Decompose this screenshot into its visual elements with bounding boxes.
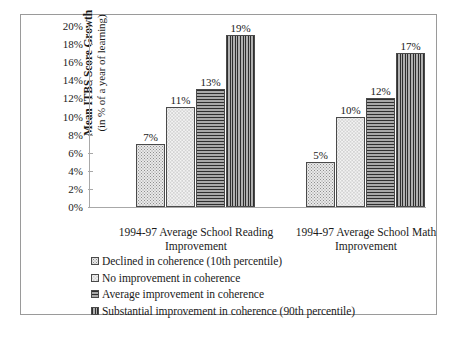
y-axis-tick: [88, 171, 93, 172]
legend-swatch-icon: [91, 290, 99, 298]
x-axis-line: [89, 207, 426, 208]
y-axis-tick-label: 18%: [63, 38, 83, 50]
y-axis-tick-label: 14%: [63, 74, 83, 86]
y-axis-tick-label: 6%: [68, 147, 83, 159]
y-axis-tick-label: 0%: [68, 201, 83, 213]
legend-label: No improvement in coherence: [102, 272, 240, 284]
bar-group-reading: 7% 11% 13% 19%: [136, 26, 256, 207]
legend-swatch-icon: [91, 274, 99, 282]
y-axis-tick: [88, 80, 93, 81]
y-axis-tick-label: 8%: [68, 129, 83, 141]
bar-math-substantial[interactable]: 17%: [396, 53, 425, 207]
bar-reading-no-improvement[interactable]: 11%: [166, 107, 195, 207]
y-axis-tick: [88, 44, 93, 45]
y-axis-tick: [88, 62, 93, 63]
y-axis-tick-label: 4%: [68, 165, 83, 177]
y-axis-tick: [88, 135, 93, 136]
legend-swatch-icon: [91, 307, 99, 315]
bar-value-label: 17%: [400, 40, 420, 52]
legend-label: Substantial improvement in coherence (90…: [102, 305, 355, 317]
bar-value-label: 12%: [370, 85, 390, 97]
bar-value-label: 7%: [143, 131, 158, 143]
y-axis-tick: [88, 26, 93, 27]
category-label-math: 1994-97 Average School Math Improvement: [269, 226, 457, 253]
bar-group-math: 5% 10% 12% 17%: [306, 26, 426, 207]
y-axis-tick-label: 10%: [63, 111, 83, 123]
y-axis-tick: [88, 207, 93, 208]
bar-math-average[interactable]: 12%: [366, 98, 395, 207]
category-label-line1: 1994-97 Average School Reading: [119, 226, 274, 238]
y-axis-tick: [88, 189, 93, 190]
chart-legend: Declined in coherence (10th percentile)N…: [91, 253, 421, 319]
chart-frame: Mean ITBS Score Growth (in % of a year o…: [20, 14, 437, 315]
bar-value-label: 19%: [230, 22, 250, 34]
y-axis-tick-label: 16%: [63, 56, 83, 68]
bar-math-no-improvement[interactable]: 10%: [336, 117, 365, 208]
legend-item[interactable]: Declined in coherence (10th percentile): [91, 253, 421, 270]
bar-reading-declined[interactable]: 7%: [136, 144, 165, 207]
y-axis-tick: [88, 153, 93, 154]
y-axis-tick: [88, 98, 93, 99]
legend-item[interactable]: No improvement in coherence: [91, 270, 421, 287]
bar-value-label: 5%: [313, 149, 328, 161]
y-axis-tick-label: 2%: [68, 183, 83, 195]
bar-value-label: 13%: [200, 76, 220, 88]
category-label-line2: Improvement: [165, 240, 227, 252]
bar-math-declined[interactable]: 5%: [306, 162, 335, 207]
category-label-reading: 1994-97 Average School Reading Improveme…: [96, 226, 296, 253]
category-label-line1: 1994-97 Average School Math: [296, 226, 437, 238]
legend-swatch-icon: [91, 257, 99, 265]
bar-value-label: 11%: [171, 94, 191, 106]
legend-item[interactable]: Average improvement in coherence: [91, 286, 421, 303]
legend-label: Declined in coherence (10th percentile): [102, 255, 282, 267]
plot-area: 20%18%16%14%12%10%8%6%4%2%0% 7% 11% 13% …: [89, 26, 426, 208]
bar-reading-substantial[interactable]: 19%: [226, 35, 255, 207]
category-label-line2: Improvement: [335, 240, 397, 252]
y-axis-tick: [88, 117, 93, 118]
bar-value-label: 10%: [340, 104, 360, 116]
bar-reading-average[interactable]: 13%: [196, 89, 225, 207]
legend-label: Average improvement in coherence: [102, 288, 264, 300]
legend-item[interactable]: Substantial improvement in coherence (90…: [91, 303, 421, 320]
y-axis-tick-label: 12%: [63, 92, 83, 104]
y-axis-tick-label: 20%: [63, 20, 83, 32]
